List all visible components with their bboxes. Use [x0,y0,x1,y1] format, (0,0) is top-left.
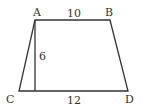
top-base-length: 10 [67,7,81,20]
bottom-base-length: 12 [67,94,81,107]
vertex-label-b: B [105,6,113,19]
vertex-label-a: A [32,6,42,19]
trapezoid-diagram: A B C D 10 6 12 [0,0,143,109]
vertex-label-d: D [125,93,134,106]
height-length: 6 [39,50,46,63]
vertex-label-c: C [6,93,14,106]
